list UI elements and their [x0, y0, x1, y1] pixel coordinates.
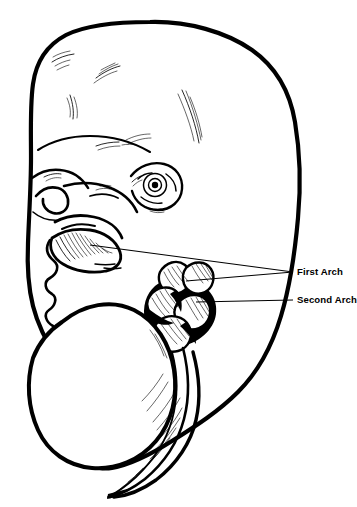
label-second-arch: Second Arch — [297, 294, 357, 305]
label-group: First Arch Second Arch — [297, 266, 357, 305]
label-first-arch: First Arch — [297, 266, 343, 277]
heart-prominence — [29, 304, 175, 468]
embryo-arch-figure: First Arch Second Arch — [0, 0, 357, 507]
figure-canvas: First Arch Second Arch — [0, 0, 357, 507]
